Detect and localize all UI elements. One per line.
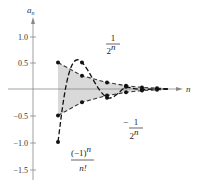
svg-text:1: 1 [134, 117, 139, 127]
x-axis-label: n [186, 84, 191, 94]
upper-annotation: 1 2n [106, 33, 120, 56]
sequence-annotation: (−1)n n! [71, 144, 94, 173]
y-axis-label: an [27, 5, 35, 16]
sequence-chart: 1.0 0.5 −0.5 −1.0 −1.5 an n 1 2n − [0, 0, 197, 193]
y-tick-1: 1.0 [18, 33, 28, 42]
y-axis-arrow-icon [31, 17, 35, 24]
y-tick-neg1: −1.0 [13, 139, 28, 148]
svg-text:(−1)n: (−1)n [71, 144, 92, 158]
lower-annotation: − 1 2n [123, 117, 143, 141]
y-tick-neg1.5: −1.5 [13, 166, 28, 175]
y-tick-neg0.5: −0.5 [13, 112, 28, 121]
svg-text:2n: 2n [130, 127, 140, 141]
y-tick-0.5: 0.5 [18, 59, 28, 68]
svg-text:n!: n! [79, 163, 87, 173]
svg-text:−: − [123, 117, 128, 127]
x-axis-arrow-icon [176, 87, 183, 91]
